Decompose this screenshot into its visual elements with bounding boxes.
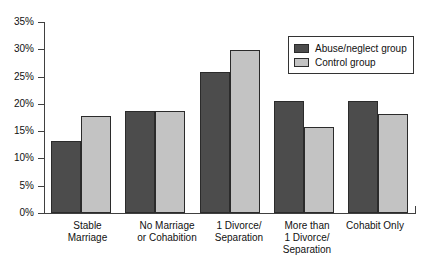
x-axis-label-4: Cohabit Only xyxy=(327,220,423,232)
x-axis-end-tick xyxy=(415,206,416,214)
bar-3-series-0 xyxy=(274,101,304,213)
chart-legend: Abuse/neglect group Control group xyxy=(288,36,414,74)
bar-0-series-1 xyxy=(81,116,111,213)
y-axis-tick-label-7: 0% xyxy=(0,208,34,218)
bar-4-series-1 xyxy=(378,114,408,213)
y-axis-tick-7 xyxy=(38,213,44,214)
y-axis-tick-label-0: 35% xyxy=(0,17,34,27)
legend-item-abuse-neglect-group: Abuse/neglect group xyxy=(294,41,407,55)
y-axis-tick-label-4: 15% xyxy=(0,126,34,136)
legend-swatch-icon-dark xyxy=(294,44,309,53)
legend-label-1: Control group xyxy=(315,57,376,68)
bar-4-series-0 xyxy=(348,101,378,213)
bar-0-series-0 xyxy=(51,141,81,213)
y-axis-tick-label-2: 25% xyxy=(0,72,34,82)
x-axis-line xyxy=(44,213,416,214)
legend-item-control-group: Control group xyxy=(294,55,407,69)
legend-swatch-icon-light xyxy=(294,58,309,67)
bar-1-series-1 xyxy=(155,111,185,213)
y-axis-tick-label-1: 30% xyxy=(0,44,34,54)
y-axis-tick-label-5: 10% xyxy=(0,153,34,163)
bar-2-series-1 xyxy=(230,50,260,213)
bar-3-series-1 xyxy=(304,127,334,213)
y-axis-tick-label-6: 5% xyxy=(0,181,34,191)
bar-1-series-0 xyxy=(125,111,155,213)
bar-chart: 35%30%25%20%15%10%5%0% Stable Marriage N… xyxy=(0,0,432,279)
y-axis-tick-label-3: 20% xyxy=(0,99,34,109)
bar-2-series-0 xyxy=(200,72,230,213)
legend-label-0: Abuse/neglect group xyxy=(315,43,407,54)
